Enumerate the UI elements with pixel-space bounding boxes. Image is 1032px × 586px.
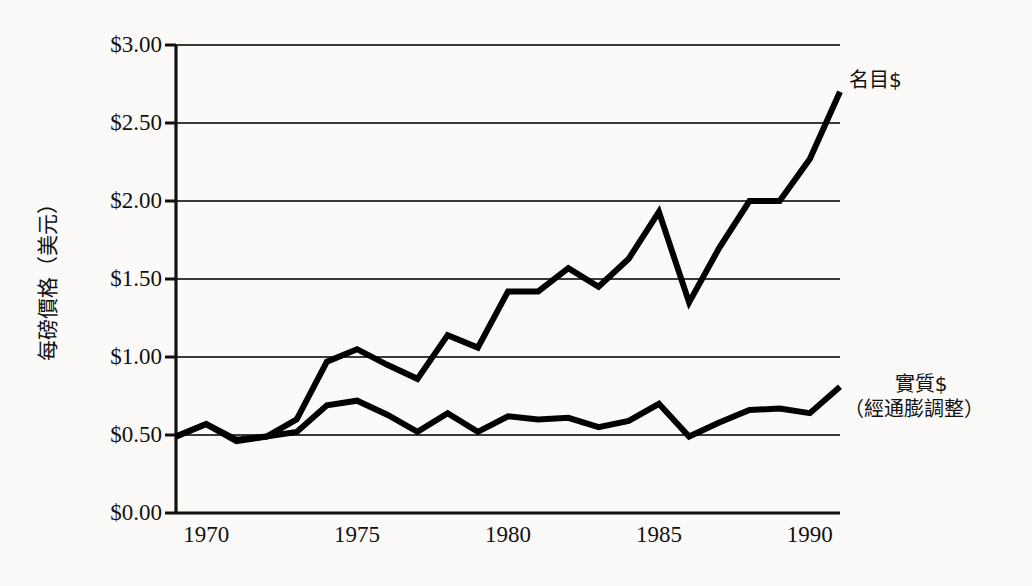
series-annotation-real-sub: （經通膨調整） [844, 397, 984, 422]
gridlines [176, 45, 840, 435]
series-line-nominal [176, 92, 840, 441]
series-annotation-nominal: 名目$ [849, 68, 902, 93]
series-annotation-real: 實質$ （經通膨調整） [858, 372, 984, 422]
y-tick-marks [165, 45, 176, 513]
series-annotation-real-main: 實質$ [895, 372, 948, 396]
chart-container: 每磅價格（美元） $3.00 $2.50 $2.00 $1.50 $1.00 $… [0, 0, 1032, 586]
